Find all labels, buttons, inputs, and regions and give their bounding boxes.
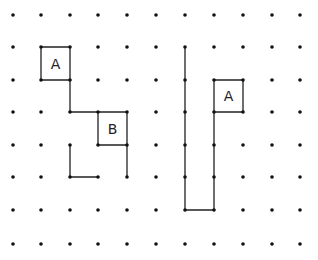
grid-dot	[212, 13, 216, 17]
grid-dot	[125, 78, 129, 82]
grid-dot	[270, 78, 274, 82]
grid-dot	[68, 143, 72, 147]
grid-dot	[125, 143, 129, 147]
grid-dot	[270, 208, 274, 212]
grid-dot	[11, 110, 15, 114]
grid-dot	[298, 175, 302, 179]
grid-dot	[241, 110, 245, 114]
grid-dot	[11, 242, 15, 246]
grid-dot	[212, 110, 216, 114]
grid-dot	[154, 45, 158, 49]
grid-dot	[241, 208, 245, 212]
grid-dot	[270, 13, 274, 17]
grid-dot	[183, 208, 187, 212]
grid-dot	[125, 208, 129, 212]
grid-dot	[298, 78, 302, 82]
grid-dot	[96, 175, 100, 179]
square-label: B	[108, 121, 118, 137]
grid-dot	[270, 110, 274, 114]
grid-dot	[241, 13, 245, 17]
grid-dot	[298, 208, 302, 212]
grid-dot	[154, 242, 158, 246]
grid-canvas	[0, 0, 318, 260]
grid-dot	[68, 78, 72, 82]
path-segment-5	[185, 47, 214, 210]
grid-dot	[212, 242, 216, 246]
grid-dot	[68, 242, 72, 246]
grid-dot	[39, 242, 43, 246]
grid-dot	[270, 45, 274, 49]
grid-dot	[241, 45, 245, 49]
grid-dot	[96, 78, 100, 82]
grid-dot	[183, 45, 187, 49]
grid-dot	[298, 13, 302, 17]
grid-dot	[96, 45, 100, 49]
grid-dot	[125, 110, 129, 114]
grid-dot	[11, 143, 15, 147]
grid-dot	[39, 78, 43, 82]
grid-dot	[270, 242, 274, 246]
grid-dot	[125, 175, 129, 179]
grid-dot	[68, 45, 72, 49]
grid-dot	[298, 242, 302, 246]
grid-dot	[154, 143, 158, 147]
grid-dot	[96, 208, 100, 212]
grid-dot	[39, 13, 43, 17]
grid-dot	[270, 175, 274, 179]
path-segment-4	[70, 145, 98, 177]
grid-dot	[212, 143, 216, 147]
grid-dot	[11, 45, 15, 49]
grid-dot	[11, 78, 15, 82]
square-label: A	[51, 56, 61, 72]
grid-dot	[183, 242, 187, 246]
grid-dot	[212, 45, 216, 49]
grid-dot	[154, 13, 158, 17]
grid-dot	[11, 175, 15, 179]
grid-dot	[125, 242, 129, 246]
grid-dot	[68, 175, 72, 179]
grid-dot	[183, 110, 187, 114]
grid-dot	[68, 208, 72, 212]
grid-dot	[270, 143, 274, 147]
grid-dot	[212, 208, 216, 212]
grid-dot	[39, 208, 43, 212]
grid-dot	[212, 175, 216, 179]
dot-grid-diagram: ABA	[0, 0, 318, 260]
grid-dot	[39, 143, 43, 147]
grid-dot	[125, 13, 129, 17]
grid-dot	[68, 110, 72, 114]
grid-dot	[96, 143, 100, 147]
grid-dot	[39, 110, 43, 114]
grid-dot	[298, 110, 302, 114]
path-segment-1	[70, 80, 127, 112]
grid-dot	[154, 78, 158, 82]
grid-dot	[39, 175, 43, 179]
grid-dot	[298, 143, 302, 147]
grid-dot	[183, 175, 187, 179]
grid-dot	[241, 143, 245, 147]
square-label: A	[224, 88, 234, 104]
grid-dot	[68, 13, 72, 17]
grid-dot	[96, 110, 100, 114]
grid-dot	[96, 242, 100, 246]
grid-dot	[241, 78, 245, 82]
grid-dot	[183, 143, 187, 147]
grid-dot	[11, 13, 15, 17]
grid-dot	[11, 208, 15, 212]
grid-dot	[212, 78, 216, 82]
grid-dot	[39, 45, 43, 49]
grid-dot	[154, 175, 158, 179]
grid-dot	[183, 78, 187, 82]
grid-dot	[298, 45, 302, 49]
grid-dot	[125, 45, 129, 49]
grid-dot	[154, 208, 158, 212]
grid-dot	[241, 242, 245, 246]
grid-dot	[183, 13, 187, 17]
grid-dot	[96, 13, 100, 17]
grid-dot	[241, 175, 245, 179]
grid-dot	[154, 110, 158, 114]
